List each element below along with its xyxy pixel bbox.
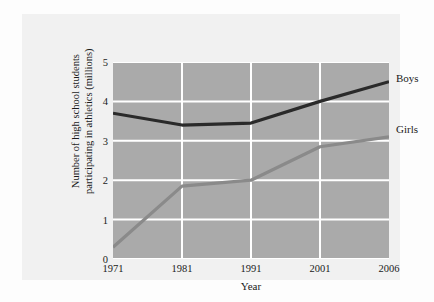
plot-svg [113, 62, 389, 259]
x-axis-tick-labels: 19711981199120012006 [113, 263, 389, 279]
y-axis-title-line-1: Number of high school students [69, 21, 82, 221]
x-tick-label: 2006 [359, 263, 419, 274]
x-tick-label: 2001 [290, 263, 350, 274]
x-tick-label: 1991 [221, 263, 281, 274]
y-tick-label: 5 [88, 57, 108, 68]
series-label-boys: Boys [396, 72, 419, 84]
series-label-girls: Girls [396, 123, 418, 135]
y-tick-label: 4 [88, 96, 108, 107]
plot-area [113, 62, 389, 259]
y-tick-label: 1 [88, 214, 108, 225]
x-tick-label: 1971 [83, 263, 143, 274]
chart-panel: Number of high school students participa… [22, 14, 400, 280]
chart-figure: Number of high school students participa… [0, 0, 434, 302]
x-axis-title: Year [113, 280, 389, 292]
y-tick-label: 2 [88, 175, 108, 186]
vertical-gridlines [182, 62, 320, 259]
x-tick-label: 1981 [152, 263, 212, 274]
y-axis-tick-labels: 012345 [88, 62, 108, 259]
y-tick-label: 3 [88, 135, 108, 146]
